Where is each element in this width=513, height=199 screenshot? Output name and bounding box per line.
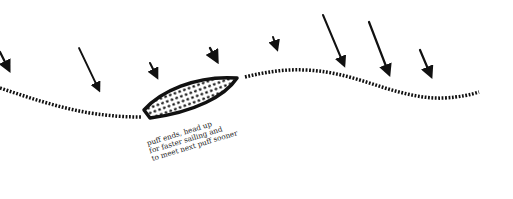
- diagram-graphic: [0, 0, 513, 199]
- wind-arrow-icon: [323, 15, 344, 65]
- wind-arrow-icon: [369, 22, 389, 74]
- course-line-right: [245, 70, 479, 98]
- wind-arrow-icon: [210, 48, 217, 61]
- wind-arrow-icon: [273, 37, 277, 49]
- wind-arrow-icon: [79, 48, 99, 90]
- boat-icon: [144, 78, 237, 118]
- diagram-canvas: puff ends, head up for faster sailing an…: [0, 0, 513, 199]
- course-line-left: [0, 88, 141, 117]
- wind-arrow-icon: [150, 63, 157, 77]
- wind-arrow-icon: [420, 50, 431, 76]
- wind-arrow-icon: [0, 52, 9, 70]
